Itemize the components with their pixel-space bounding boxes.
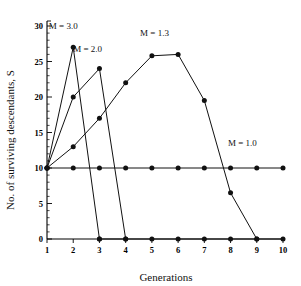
series-line (47, 69, 126, 239)
y-tick-label: 30 (35, 21, 44, 31)
y-tick-label: 25 (35, 57, 44, 67)
series-annotation-label: M = 1.0 (228, 138, 257, 148)
data-point (97, 237, 102, 242)
chart-annotations: M = 3.0M = 2.0M = 1.3M = 1.0 (49, 21, 257, 148)
x-axis-title: Generations (139, 271, 192, 283)
data-point (97, 166, 102, 171)
x-tick-label: 7 (202, 245, 207, 255)
series-annotation-label: M = 2.0 (73, 44, 102, 54)
x-axis-ticks: 12345678910 (45, 239, 287, 255)
x-tick-label: 3 (97, 245, 101, 255)
series-0 (45, 45, 102, 242)
x-tick-label: 9 (255, 245, 259, 255)
x-tick-label: 8 (228, 245, 232, 255)
data-point (176, 52, 181, 57)
data-point (202, 166, 207, 171)
data-point (228, 237, 233, 242)
series-line (47, 47, 99, 239)
series-3 (45, 166, 286, 171)
x-tick-label: 5 (150, 245, 154, 255)
chart-figure: No. of surviving descendants, S Generati… (0, 0, 301, 286)
data-point (149, 166, 154, 171)
x-tick-label: 6 (176, 245, 180, 255)
x-tick-label: 4 (124, 245, 129, 255)
y-tick-label: 0 (39, 234, 43, 244)
x-axis-title-text: Generations (139, 271, 192, 283)
data-point (97, 116, 102, 121)
x-tick-label: 10 (279, 245, 288, 255)
series-annotation-label: M = 3.0 (49, 21, 78, 31)
data-point (254, 166, 259, 171)
y-tick-label: 10 (35, 163, 44, 173)
data-point (149, 237, 154, 242)
data-point (123, 237, 128, 242)
y-axis-title: No. of surviving descendants, S (4, 70, 16, 210)
data-point (71, 95, 76, 100)
data-point (228, 166, 233, 171)
series-annotation-label: M = 1.3 (140, 28, 169, 38)
y-tick-label: 20 (35, 92, 44, 102)
chart-svg: No. of surviving descendants, S Generati… (0, 0, 301, 286)
x-tick-label: 2 (71, 245, 75, 255)
y-axis-ticks: 051015202530 (35, 21, 53, 244)
data-point (97, 66, 102, 71)
data-point (176, 166, 181, 171)
data-point (254, 237, 259, 242)
data-point (123, 80, 128, 85)
data-point (45, 166, 50, 171)
data-point (71, 166, 76, 171)
data-point (202, 237, 207, 242)
data-point (281, 166, 286, 171)
y-tick-label: 5 (39, 199, 43, 209)
data-point (123, 166, 128, 171)
y-tick-label: 15 (35, 128, 44, 138)
data-point (71, 144, 76, 149)
data-point (281, 237, 286, 242)
data-point (228, 190, 233, 195)
data-point (176, 237, 181, 242)
x-tick-label: 1 (45, 245, 49, 255)
y-axis-title-text: No. of surviving descendants, S (4, 70, 16, 210)
data-point (149, 53, 154, 58)
data-point (202, 98, 207, 103)
series-1 (45, 66, 129, 241)
